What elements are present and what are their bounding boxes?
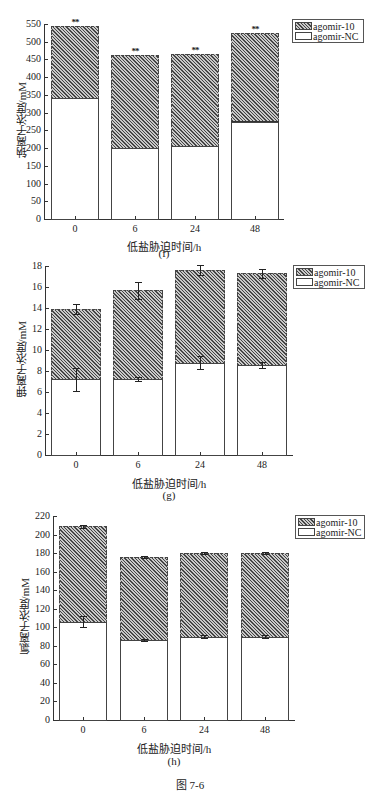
legend-swatch bbox=[298, 518, 315, 526]
bar-agomir-nc bbox=[59, 622, 107, 721]
y-tick-label: 40 bbox=[20, 678, 50, 688]
bar-agomir-10 bbox=[180, 553, 228, 637]
y-axis-label: 氯离子浓度/mM bbox=[17, 578, 33, 654]
y-tick bbox=[53, 627, 57, 628]
y-tick-label: 180 bbox=[20, 548, 50, 558]
legend-item-agomir-nc: agomir-NC bbox=[296, 277, 362, 287]
y-axis-label: 钾离子浓度/mM bbox=[14, 321, 30, 397]
y-tick bbox=[45, 350, 49, 351]
bar-agomir-10 bbox=[120, 557, 168, 641]
y-tick-label: 2 bbox=[12, 429, 42, 439]
bar-agomir-nc bbox=[120, 640, 168, 721]
y-tick bbox=[45, 266, 49, 267]
y-tick-label: 4 bbox=[12, 408, 42, 418]
bar-agomir-nc bbox=[113, 379, 163, 456]
legend-label: agomir-NC bbox=[316, 527, 361, 538]
y-tick bbox=[45, 371, 49, 372]
error-bar bbox=[259, 362, 266, 369]
legend-item-agomir-nc: agomir-NC bbox=[298, 527, 362, 537]
y-tick-label: 60 bbox=[20, 659, 50, 669]
y-tick bbox=[53, 572, 57, 573]
x-tick bbox=[144, 717, 145, 720]
x-axis-label: 低盐胁迫时间/h bbox=[94, 740, 254, 756]
x-tick-label: 48 bbox=[247, 459, 277, 470]
x-tick-label: 6 bbox=[129, 724, 159, 735]
x-tick bbox=[200, 452, 201, 455]
error-bar bbox=[141, 556, 148, 559]
error-bar bbox=[80, 525, 87, 529]
bar-agomir-10 bbox=[241, 553, 289, 637]
y-tick bbox=[53, 535, 57, 536]
error-bar bbox=[135, 377, 142, 382]
bar-agomir-10 bbox=[237, 273, 287, 365]
error-bar bbox=[73, 304, 80, 316]
error-bar bbox=[259, 269, 266, 278]
y-tick-label: 0 bbox=[20, 715, 50, 725]
legend: agomir-10agomir-NC bbox=[293, 265, 365, 289]
x-tick-label: 24 bbox=[185, 459, 215, 470]
legend-swatch bbox=[296, 268, 313, 276]
x-tick bbox=[138, 452, 139, 455]
error-bar bbox=[201, 635, 208, 640]
y-tick-label: 20 bbox=[20, 696, 50, 706]
y-tick bbox=[45, 434, 49, 435]
x-tick bbox=[76, 452, 77, 455]
x-tick-label: 0 bbox=[61, 459, 91, 470]
x-tick bbox=[262, 452, 263, 455]
x-tick-label: 48 bbox=[250, 724, 280, 735]
bar-agomir-10 bbox=[59, 526, 107, 623]
subfigure-label: (g) bbox=[149, 489, 189, 501]
legend-swatch bbox=[296, 278, 313, 286]
error-bar bbox=[262, 635, 269, 640]
error-bar bbox=[141, 639, 148, 642]
bar-agomir-nc bbox=[237, 365, 287, 456]
y-tick bbox=[45, 413, 49, 414]
y-tick-label: 200 bbox=[20, 530, 50, 540]
figure-caption: 图 7-6 bbox=[150, 776, 230, 792]
y-tick bbox=[53, 664, 57, 665]
y-tick bbox=[53, 720, 57, 721]
x-tick bbox=[83, 717, 84, 720]
x-tick bbox=[204, 717, 205, 720]
y-tick bbox=[45, 392, 49, 393]
legend-item-agomir-10: agomir-10 bbox=[296, 267, 362, 277]
y-tick bbox=[53, 590, 57, 591]
chart-chloride: 020406080100120140160180200220氯离子浓度/mM06… bbox=[0, 0, 383, 250]
y-tick bbox=[53, 701, 57, 702]
y-tick-label: 14 bbox=[12, 303, 42, 313]
x-tick-label: 6 bbox=[123, 459, 153, 470]
bar-agomir-nc bbox=[241, 637, 289, 721]
error-bar bbox=[262, 552, 269, 556]
y-tick-label: 160 bbox=[20, 567, 50, 577]
bar-agomir-nc bbox=[175, 363, 225, 456]
y-tick bbox=[53, 683, 57, 684]
y-tick-label: 18 bbox=[12, 261, 42, 271]
legend: agomir-10agomir-NC bbox=[295, 515, 365, 539]
error-bar bbox=[197, 265, 204, 277]
x-tick-label: 0 bbox=[68, 724, 98, 735]
y-tick bbox=[45, 455, 49, 456]
error-bar bbox=[73, 368, 80, 392]
x-tick bbox=[265, 717, 266, 720]
y-tick bbox=[45, 287, 49, 288]
bar-agomir-10 bbox=[113, 290, 163, 380]
error-bar bbox=[197, 356, 204, 370]
y-tick-label: 0 bbox=[12, 450, 42, 460]
y-tick bbox=[53, 553, 57, 554]
legend-swatch bbox=[298, 528, 315, 536]
y-tick-label: 16 bbox=[12, 282, 42, 292]
y-tick bbox=[45, 329, 49, 330]
y-tick bbox=[53, 609, 57, 610]
y-tick-label: 220 bbox=[20, 511, 50, 521]
y-tick bbox=[45, 308, 49, 309]
y-tick bbox=[53, 646, 57, 647]
subfigure-label: (h) bbox=[154, 755, 194, 767]
y-tick bbox=[53, 516, 57, 517]
error-bar bbox=[201, 552, 208, 556]
bar-agomir-10 bbox=[175, 270, 225, 363]
x-tick-label: 24 bbox=[189, 724, 219, 735]
error-bar bbox=[80, 616, 87, 628]
legend-item-agomir-10: agomir-10 bbox=[298, 517, 362, 527]
y-axis bbox=[53, 516, 54, 721]
legend-label: agomir-NC bbox=[314, 277, 359, 288]
